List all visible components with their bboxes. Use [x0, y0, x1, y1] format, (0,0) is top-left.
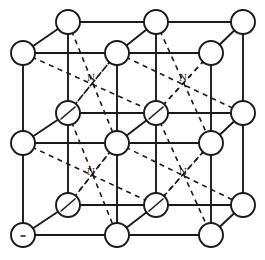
atom-circle-front [105, 223, 129, 247]
atom-front [105, 223, 129, 247]
atom-circle-back [231, 193, 255, 217]
atom-back [56, 193, 80, 217]
atom-back [231, 193, 255, 217]
atom-front [199, 131, 223, 155]
atom-front [199, 41, 223, 65]
atom-back [144, 193, 168, 217]
atom-circle-front [199, 223, 223, 247]
atom-front [11, 41, 35, 65]
lattice-diagram-figure: N N N N [0, 0, 265, 260]
interstitial-label-n-2: N [179, 71, 187, 83]
interstitial-label-n-4: N [179, 165, 187, 177]
interstitial-site-labels: N N N N [87, 71, 187, 177]
atom-back [56, 101, 80, 125]
atom-back [144, 10, 168, 34]
atom-back [231, 10, 255, 34]
atom-circle-front [11, 131, 35, 155]
atom-circle-front [105, 131, 129, 155]
atom-circle-front [199, 41, 223, 65]
interstitial-label-n-1: N [87, 71, 95, 83]
atom-circle-front [11, 41, 35, 65]
atom-circle-back [56, 10, 80, 34]
atom-circle-front [105, 41, 129, 65]
atom-front [199, 223, 223, 247]
atom-front [11, 131, 35, 155]
atom-front [105, 131, 129, 155]
interstitial-label-n-3: N [87, 165, 95, 177]
atom-front [105, 41, 129, 65]
atom-circle-back [144, 10, 168, 34]
atom-back [144, 101, 168, 125]
atom-back [231, 101, 255, 125]
atom-front [11, 223, 35, 247]
atom-circle-back [231, 101, 255, 125]
atom-back [56, 10, 80, 34]
atom-circle-back [231, 10, 255, 34]
atom-circle-front [199, 131, 223, 155]
lattice-svg: N N N N [0, 0, 265, 260]
atom-circle-front [11, 223, 35, 247]
